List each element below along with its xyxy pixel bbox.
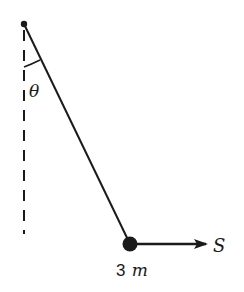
mass-label-number: 3 <box>116 261 125 280</box>
pendulum-diagram: θ S 3 m <box>0 0 244 292</box>
pivot-point <box>21 21 27 27</box>
mass-label: 3 m <box>116 260 148 280</box>
mass-label-unit: m <box>132 260 148 280</box>
mass-bob <box>123 237 138 252</box>
angle-arc <box>24 60 40 67</box>
pendulum-string <box>24 24 130 244</box>
angle-label: θ <box>29 81 39 101</box>
force-label: S <box>213 235 225 256</box>
